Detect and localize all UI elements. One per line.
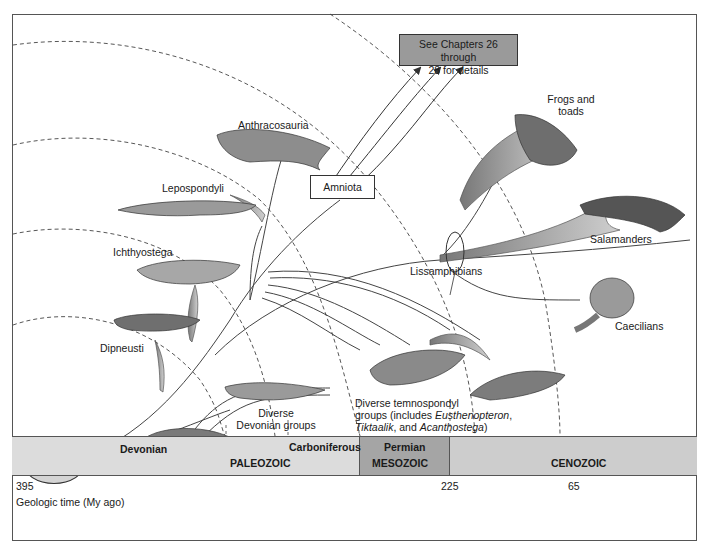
temnospondyl-line-3: Tiktaalik, and Acanthostega) xyxy=(355,421,512,433)
callout-line-2: 28 for details xyxy=(400,64,517,77)
mesozoic-era-label: MESOZOIC xyxy=(372,457,428,469)
time-axis-label: Geologic time (My ago) xyxy=(16,496,125,508)
carboniferous-period-label: Carboniferous xyxy=(289,441,361,453)
tick-395: 395 xyxy=(16,480,34,492)
caecilians-label: Caecilians xyxy=(615,320,663,332)
permian-period-label: Permian xyxy=(384,441,425,453)
lissamphibians-label: Lissamphibians xyxy=(410,265,482,277)
anthracosauria-illustration xyxy=(217,129,330,170)
devonian-groups-line-1: Diverse xyxy=(236,407,316,419)
temnospondyl-line-1: Diverse temnospondyl xyxy=(355,397,512,409)
frogs-line-1: Frogs and xyxy=(541,93,601,105)
dipneusti-label: Dipneusti xyxy=(100,342,144,354)
chapters-callout-box: See Chapters 26 through 28 for details xyxy=(399,34,518,66)
amniota-box: Amniota xyxy=(310,175,375,199)
devonian-fish-illustration xyxy=(225,383,325,400)
paleozoic-era-label: PALEOZOIC xyxy=(230,457,290,469)
salamanders-label: Salamanders xyxy=(590,233,652,245)
frogs-line-2: toads xyxy=(541,105,601,117)
tick-65: 65 xyxy=(568,480,580,492)
dipneusti-illustration xyxy=(114,314,200,331)
devonian-period-label: Devonian xyxy=(120,443,167,455)
callout-line-1: See Chapters 26 through xyxy=(400,38,517,64)
lepospondyli-label: Lepospondyli xyxy=(162,182,224,194)
ichthyostega-label: Ichthyostega xyxy=(113,246,173,258)
temnospondyl-line-2: groups (includes Eusthenopteron, xyxy=(355,409,512,421)
devonian-groups-line-2: Devonian groups xyxy=(236,419,316,431)
devonian-groups-label: Diverse Devonian groups xyxy=(236,407,316,431)
temnospondyl-label: Diverse temnospondyl groups (includes Eu… xyxy=(355,397,512,433)
cenozoic-era-label: CENOZOIC xyxy=(551,457,606,469)
lepospondyli-illustration xyxy=(118,201,256,216)
ichthyostega-illustration xyxy=(137,260,240,284)
time-boundary-arcs xyxy=(13,14,560,436)
amniota-arrows xyxy=(330,68,462,192)
cenozoic-band xyxy=(450,436,697,476)
temnospondyl-illustration-2 xyxy=(470,371,565,400)
temnospondyl-illustration-1 xyxy=(370,350,465,385)
tick-225: 225 xyxy=(441,480,459,492)
frogs-toads-label: Frogs and toads xyxy=(541,93,601,117)
anthracosauria-label: Anthracosauria xyxy=(238,119,309,131)
